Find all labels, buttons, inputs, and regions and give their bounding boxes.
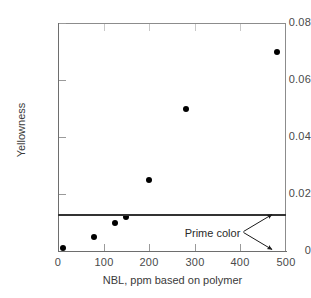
x-axis-line: [58, 251, 287, 252]
y-axis-tick: [59, 137, 66, 138]
y-axis-tick: [59, 80, 66, 81]
plot-area-frame: [58, 23, 286, 252]
y-axis-title: Yellowness: [15, 80, 27, 180]
data-point: [112, 220, 118, 226]
x-axis-tick-top: [240, 24, 241, 31]
y-axis-tick-label: 0.04: [259, 130, 311, 142]
x-axis-tick: [240, 244, 241, 251]
x-axis-tick-label: 500: [266, 256, 306, 268]
y-axis-tick-label: 0.02: [259, 187, 311, 199]
data-point: [274, 49, 280, 55]
prime-color-reference-line: [58, 214, 286, 216]
y-axis-tick: [59, 23, 66, 24]
x-axis-tick-top: [195, 24, 196, 31]
data-point: [183, 106, 189, 112]
x-axis-tick-label: 0: [38, 256, 78, 268]
x-axis-title: NBL, ppm based on polymer: [58, 274, 287, 286]
x-axis-tick-label: 400: [220, 256, 260, 268]
x-axis-tick: [149, 244, 150, 251]
y-axis-tick-label: 0.06: [259, 73, 311, 85]
figure-caption: [0, 290, 311, 298]
x-axis-tick-label: 100: [84, 256, 124, 268]
data-point: [91, 234, 97, 240]
y-axis-tick-label: 0.08: [259, 16, 311, 28]
prime-color-annotation-label: Prime color: [185, 227, 241, 239]
x-axis-tick-top: [104, 24, 105, 31]
data-point: [60, 245, 66, 251]
data-point: [146, 177, 152, 183]
x-axis-tick: [195, 244, 196, 251]
x-axis-tick-label: 200: [129, 256, 169, 268]
x-axis-tick-top: [149, 24, 150, 31]
chart-figure: 00.020.040.060.080100200300400500 Prime …: [0, 0, 311, 298]
x-axis-tick: [104, 244, 105, 251]
x-axis-tick-label: 300: [175, 256, 215, 268]
y-axis-tick: [59, 194, 66, 195]
y-axis-tick-label: 0: [259, 244, 311, 256]
